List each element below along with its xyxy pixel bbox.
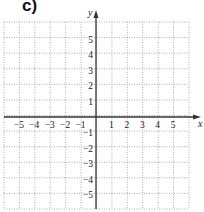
- x-tick-label: 4: [155, 120, 160, 130]
- y-tick-label: −2: [83, 144, 93, 154]
- x-tick-label: −3: [45, 120, 55, 130]
- x-tick-label: −5: [14, 120, 24, 130]
- coordinate-grid: xy−5−4−3−2−11234554321−1−2−3−4−5: [0, 0, 204, 212]
- x-tick-label: −4: [29, 120, 39, 130]
- y-tick-label: 5: [88, 35, 93, 45]
- y-axis-label: y: [87, 7, 93, 18]
- y-tick-label: −3: [83, 159, 93, 169]
- y-tick-label: 3: [88, 66, 93, 76]
- x-tick-label: 5: [171, 120, 176, 130]
- x-tick-label: −2: [60, 120, 70, 130]
- y-tick-label: 2: [88, 81, 93, 91]
- y-tick-label: −4: [83, 175, 93, 185]
- y-tick-label: −1: [83, 128, 93, 138]
- x-tick-label: 3: [140, 120, 145, 130]
- y-tick-label: 1: [88, 97, 93, 107]
- x-axis-label: x: [197, 118, 203, 129]
- y-tick-label: 4: [88, 50, 93, 60]
- y-tick-label: −5: [83, 190, 93, 200]
- x-tick-label: 1: [109, 120, 114, 130]
- y-axis-arrow-icon: [94, 10, 99, 18]
- x-tick-label: 2: [124, 120, 129, 130]
